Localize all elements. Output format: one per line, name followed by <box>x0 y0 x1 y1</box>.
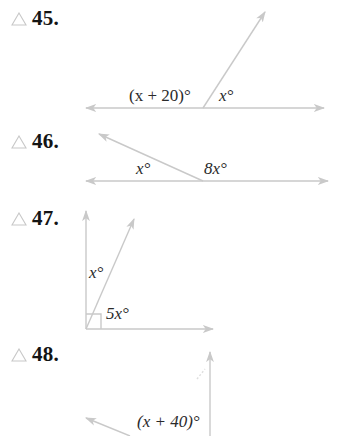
problem-number: 47. <box>32 206 59 231</box>
angle-label-46-right: 8x° <box>204 160 227 177</box>
angle-label-45-right: x° <box>219 87 233 104</box>
ray-48-slanted <box>86 418 130 436</box>
figure-45 <box>86 12 324 108</box>
triangle-icon <box>11 348 27 362</box>
triangle-icon <box>11 135 27 149</box>
angle-label-47-upper: x° <box>89 264 103 281</box>
problem-47-header: 47. <box>11 206 59 231</box>
right-angle-marker <box>86 314 101 329</box>
problem-number: 48. <box>32 342 59 367</box>
ray-48-faint-diagonal <box>197 369 205 379</box>
angle-label-47-lower: 5x° <box>106 305 129 322</box>
problem-45-header: 45. <box>11 6 59 31</box>
angle-label-46-left: x° <box>136 160 150 177</box>
problem-number: 46. <box>32 129 59 154</box>
ray-45-slanted <box>203 12 265 108</box>
angle-label-45-left: (x + 20)° <box>129 87 191 104</box>
problem-46-header: 46. <box>11 129 59 154</box>
ray-46-slanted <box>99 134 203 181</box>
problem-number: 45. <box>32 6 59 31</box>
triangle-icon <box>11 12 27 26</box>
triangle-icon <box>11 212 27 226</box>
angle-label-48: (x + 40)° <box>137 413 200 430</box>
problem-48-header: 48. <box>11 342 59 367</box>
